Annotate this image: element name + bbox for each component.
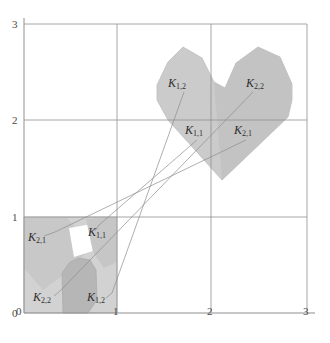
label-base: K <box>88 225 96 239</box>
label-heart-lower-left: K1,1 <box>185 124 203 138</box>
label-sub: 1,1 <box>96 231 106 240</box>
label-base: K <box>168 76 176 90</box>
label-sub: 2,1 <box>242 129 252 138</box>
label-heart-upper-right: K2,2 <box>246 77 264 91</box>
label-sub: 2,2 <box>41 296 51 305</box>
label-sub: 2,2 <box>254 82 264 91</box>
label-sub: 1,2 <box>176 82 186 91</box>
x-tick-1: 1 <box>113 306 119 317</box>
label-square-upper-left: K2,1 <box>28 231 46 245</box>
label-sub: 2,1 <box>36 236 46 245</box>
leader-line-k11 <box>99 140 197 225</box>
x-tick-2: 2 <box>207 306 213 317</box>
label-base: K <box>87 290 95 304</box>
label-heart-upper-left: K1,2 <box>168 77 186 91</box>
label-sub: 1,1 <box>193 129 203 138</box>
y-tick-2: 2 <box>12 115 18 126</box>
label-heart-lower-right: K2,1 <box>234 124 252 138</box>
y-tick-0: 0 <box>12 308 18 319</box>
y-tick-3: 3 <box>12 19 18 30</box>
label-base: K <box>185 123 193 137</box>
y-tick-1: 1 <box>12 212 18 223</box>
label-square-lower-right: K1,2 <box>87 291 105 305</box>
label-base: K <box>234 123 242 137</box>
small-heart-region <box>62 258 97 313</box>
label-base: K <box>246 76 254 90</box>
x-tick-3: 3 <box>303 306 309 317</box>
label-sub: 1,2 <box>95 296 105 305</box>
leader-line-k12 <box>112 92 184 293</box>
large-heart-lower-facet <box>214 47 292 180</box>
figure-canvas: 0 1 2 3 0 1 2 3 K1,2 K2,2 K1,1 K2,1 K2,1… <box>0 0 330 343</box>
label-square-lower-left: K2,2 <box>33 291 51 305</box>
leader-line-k22 <box>60 92 253 291</box>
leader-line-k21 <box>55 140 246 232</box>
label-base: K <box>33 290 41 304</box>
label-base: K <box>28 230 36 244</box>
label-square-upper-right: K1,1 <box>88 226 106 240</box>
